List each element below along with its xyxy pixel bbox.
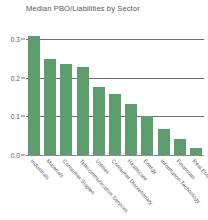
x-axis: IndustrialsMaterialsConsumer StaplesTele… xyxy=(26,156,204,220)
x-axis-tick: Real Estate xyxy=(188,156,204,220)
x-axis-tick: Consumer Staples xyxy=(58,156,74,220)
bar[interactable] xyxy=(60,64,72,155)
bar-slot xyxy=(172,39,188,155)
x-axis-tick: Financials xyxy=(172,156,188,220)
y-axis-tick-mark xyxy=(21,155,25,156)
x-axis-tick: Healthcare xyxy=(123,156,139,220)
bar[interactable] xyxy=(174,139,186,155)
bar[interactable] xyxy=(141,116,153,155)
x-axis-tick: Industrials xyxy=(26,156,42,220)
y-axis-tick-mark xyxy=(21,39,25,40)
bar-slot xyxy=(107,39,123,155)
bar[interactable] xyxy=(44,59,56,155)
bar-slot xyxy=(91,39,107,155)
x-axis-tick-label: Real Estate xyxy=(192,158,208,183)
y-axis-tick-label: 0.1 xyxy=(11,113,20,120)
y-axis-tick-label: 0.0 xyxy=(11,152,20,159)
bar-slot xyxy=(139,39,155,155)
bar-slot xyxy=(58,39,74,155)
plot-area xyxy=(26,39,204,155)
x-axis-tick: Utilities xyxy=(91,156,107,220)
y-axis-tick-mark xyxy=(21,116,25,117)
bar-slot xyxy=(156,39,172,155)
x-axis-tick: Information Technology xyxy=(156,156,172,220)
chart-title: Median PBO/Liabilities by Sector xyxy=(26,4,140,13)
y-axis-tick-label: 0.2 xyxy=(11,74,20,81)
bar[interactable] xyxy=(28,36,40,155)
x-axis-tick: Consumer Discretionary xyxy=(107,156,123,220)
bar-series xyxy=(26,39,204,155)
bar[interactable] xyxy=(190,148,202,155)
bar[interactable] xyxy=(93,87,105,155)
bar-slot xyxy=(26,39,42,155)
chart-figure: Median PBO/Liabilities by Sector 0.00.10… xyxy=(0,0,208,220)
y-axis-tick-mark xyxy=(21,77,25,78)
y-axis-tick-label: 0.3 xyxy=(11,36,20,43)
x-axis-tick: Energy xyxy=(139,156,155,220)
x-axis-tick: Materials xyxy=(42,156,58,220)
y-axis: 0.00.10.20.3 xyxy=(0,0,26,220)
bar[interactable] xyxy=(158,129,170,155)
bar-slot xyxy=(75,39,91,155)
bar-slot xyxy=(123,39,139,155)
bar-slot xyxy=(188,39,204,155)
bar[interactable] xyxy=(125,104,137,155)
x-axis-tick: Telecommunication Services xyxy=(75,156,91,220)
bar[interactable] xyxy=(77,67,89,155)
bar-slot xyxy=(42,39,58,155)
bar[interactable] xyxy=(109,94,121,155)
